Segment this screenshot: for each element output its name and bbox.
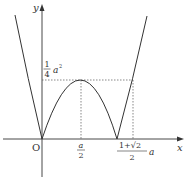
peak-y-num: 1 <box>45 60 50 69</box>
y-axis-label: y <box>32 2 39 13</box>
cross-x-num: 1+√2 <box>119 141 141 150</box>
cross-x-var: a <box>149 147 154 157</box>
cross-x-value-label: 1+√2 2 a <box>117 141 154 162</box>
peak-x-num: a <box>79 141 84 150</box>
peak-y-value-label: 1 4 a 2 <box>44 60 63 79</box>
x-axis-label: x <box>177 142 183 153</box>
axes <box>3 4 184 177</box>
left-branch <box>15 15 42 139</box>
origin-label: O <box>32 142 40 153</box>
peak-y-den: 4 <box>45 70 50 79</box>
peak-x-value-label: a 2 <box>77 141 85 160</box>
peak-y-exp: 2 <box>59 63 62 69</box>
y-axis-arrow-icon <box>40 4 45 11</box>
function-graph: y x O 1 4 a 2 a 2 1+√2 2 a <box>0 0 188 181</box>
middle-arch <box>42 80 117 139</box>
x-axis-arrow-icon <box>177 137 184 142</box>
peak-y-var: a <box>53 65 58 75</box>
cross-x-den: 2 <box>130 153 135 162</box>
right-branch <box>117 16 147 139</box>
peak-x-den: 2 <box>79 151 84 160</box>
